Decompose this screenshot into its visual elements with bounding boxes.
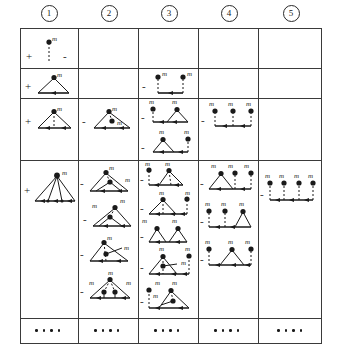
grid-vline-5 (321, 28, 322, 344)
vertex-label-m: m (228, 163, 233, 170)
vertex-label-m: m (155, 280, 160, 287)
vertex-label-m: m (117, 120, 122, 127)
vertex-label-m: m (142, 218, 147, 225)
vertex-label-m: m (62, 170, 67, 177)
column-header-1: 1 (40, 4, 58, 22)
cell-r3c4: - m m m (199, 99, 258, 160)
diagram-stalk-plus-triangle (150, 105, 192, 125)
vertex-label-m: m (187, 71, 192, 78)
sign-minus: - (83, 214, 87, 225)
cell-r5c2 (79, 319, 138, 343)
column-header-row: 1 2 3 4 5 (20, 4, 322, 26)
ellipsis-dots (214, 329, 239, 332)
cell-r4c2: - m m (79, 161, 138, 318)
vertex-label-m: m (57, 72, 62, 79)
cell-r5c5 (259, 319, 321, 343)
diagram-three-stalk (211, 107, 255, 129)
cell-r5c4 (199, 319, 258, 343)
vertex-label-m: m (228, 239, 233, 246)
vertex-label-m: m (265, 173, 270, 180)
vertex-label-m: m (89, 280, 94, 287)
dot (94, 329, 97, 332)
sign-plus: + (25, 116, 31, 127)
cell-r3c1: + m (21, 99, 78, 160)
vertex-label-m: m (239, 201, 244, 208)
diagram-tri-nested-left (91, 203, 135, 229)
dot (277, 329, 280, 332)
sign-minus: - (141, 112, 145, 123)
cell-r3c2: - m m (79, 99, 138, 160)
diagram-tri-tri (147, 223, 191, 245)
sign-minus: - (140, 174, 144, 185)
column-header-3: 3 (160, 4, 178, 22)
vertex-label-m: m (294, 173, 299, 180)
cell-r5c1 (21, 319, 78, 343)
dot (229, 329, 232, 332)
cell-r1c1: + - m (21, 29, 78, 68)
diagram-triangle-apex-drop (36, 107, 74, 131)
dot (237, 329, 240, 332)
diagram-tri-double-apex (147, 166, 187, 188)
vertex-label-m: m (185, 246, 190, 253)
circled-number-4: 4 (221, 5, 238, 22)
circled-number-3: 3 (161, 5, 178, 22)
sign-minus-right: - (63, 51, 67, 62)
figure-canvas: 1 2 3 4 5 + - (0, 0, 339, 360)
cell-r4c3: - m m (139, 161, 198, 318)
dot (43, 329, 46, 332)
diagram-stalk-tri-stalk (207, 245, 255, 268)
dot (35, 329, 38, 332)
dot (222, 329, 225, 332)
vertex-label-m: m (162, 71, 167, 78)
vertex-label-m: m (172, 218, 177, 225)
sign-minus: - (141, 142, 145, 153)
column-header-4: 4 (220, 4, 238, 22)
circled-number-2: 2 (101, 5, 118, 22)
cell-r4c4: - m m (199, 161, 258, 318)
sign-minus: - (140, 296, 144, 307)
vertex-label-m: m (159, 129, 164, 136)
ellipsis-dots (277, 329, 302, 332)
sign-minus: - (82, 116, 86, 127)
dot (177, 329, 180, 332)
sign-minus: - (140, 203, 144, 214)
dot (109, 329, 112, 332)
cell-r4c5: - (259, 161, 321, 318)
sign-minus: - (80, 249, 84, 260)
vertex-label-m: m (221, 201, 226, 208)
sign-plus: + (24, 185, 30, 196)
sign-minus: - (200, 178, 204, 189)
cell-r5c3 (139, 319, 198, 343)
vertex-label-m: m (92, 203, 97, 210)
sign-minus: - (201, 115, 205, 126)
vertex-label-m: m (211, 163, 216, 170)
vertex-label-m: m (245, 239, 250, 246)
sign-minus: - (200, 254, 204, 265)
vertex-label-m: m (149, 99, 154, 106)
dot (50, 329, 53, 332)
dot (169, 329, 172, 332)
ellipsis-dots (35, 329, 60, 332)
diagram-four-stalk (267, 179, 319, 203)
vertex-label-m: m (112, 106, 117, 113)
cell-r2c1: + m (21, 69, 78, 98)
vertex-label-m: m (209, 101, 214, 108)
cell-r3c3: - m m - (139, 99, 198, 160)
diagram-tri-inner-stalk (147, 251, 193, 277)
sign-minus: - (140, 262, 144, 273)
vertex-label-m: m (125, 177, 130, 184)
vertex-label-m: m (181, 260, 186, 267)
dot (102, 329, 105, 332)
dot (292, 329, 295, 332)
vertex-label-m: m (246, 101, 251, 108)
vertex-label-m: m (165, 161, 170, 168)
dot (214, 329, 217, 332)
ellipsis-dots (154, 329, 179, 332)
vertex-label-m: m (52, 36, 57, 43)
column-header-5: 5 (282, 4, 300, 22)
sign-plus: + (25, 81, 31, 92)
vertex-label-m: m (279, 173, 284, 180)
vertex-label-m: m (205, 239, 210, 246)
vertex-label-m: m (159, 246, 164, 253)
vertex-label-m: m (124, 245, 129, 252)
